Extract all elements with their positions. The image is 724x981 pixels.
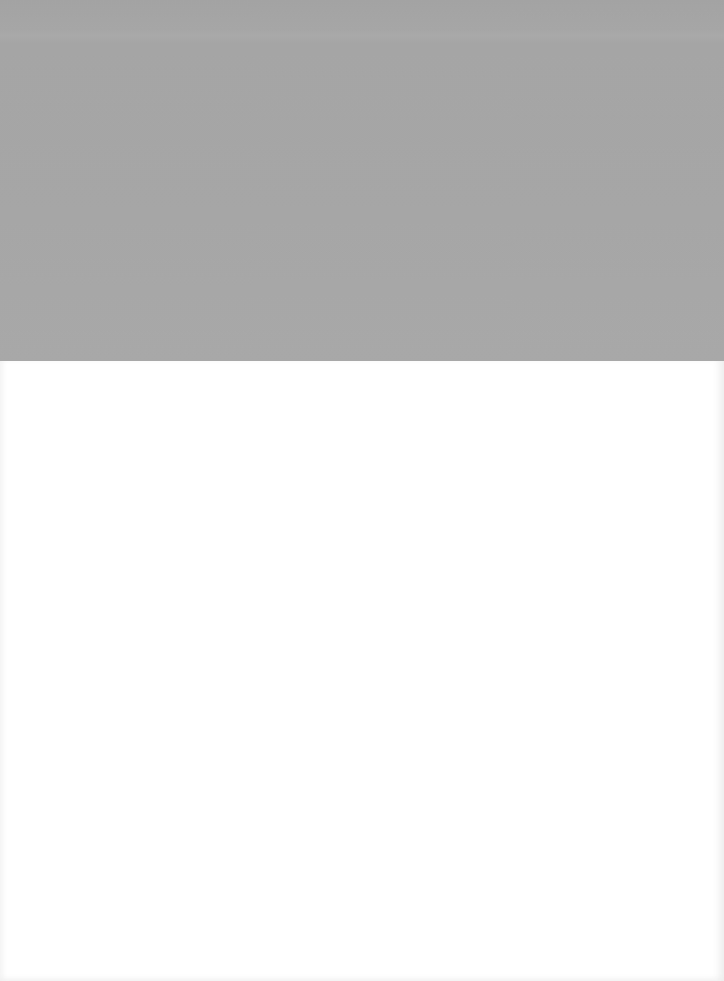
gray-placeholder-band [0,0,724,361]
blank-white-area [0,361,724,981]
